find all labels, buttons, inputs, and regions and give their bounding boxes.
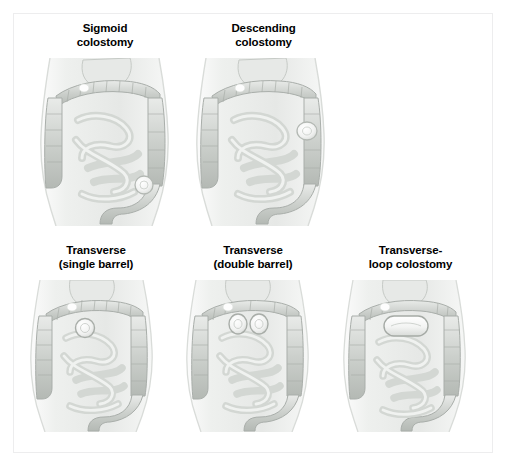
caption-line-1: Sigmoid (20, 22, 190, 36)
caption-line-1: Transverse- (329, 244, 492, 258)
panel-descending-colostomy: Descending colostomy (176, 18, 351, 228)
panel-transverse-double-barrel: Transverse (double barrel) (172, 242, 334, 450)
panel-transverse-loop-colostomy: Transverse- loop colostomy (329, 242, 492, 450)
abdomen-illustration-descending (176, 58, 351, 226)
stoma-marker-loop (384, 316, 428, 336)
stoma-marker-distal (250, 314, 268, 334)
abdomen-illustration-sigmoid (20, 58, 190, 226)
abdomen-illustration-transverse-single (16, 280, 176, 432)
caption-line-1: Transverse (172, 244, 334, 258)
caption-line-2: colostomy (176, 36, 351, 50)
caption-transverse-double-barrel: Transverse (double barrel) (172, 244, 334, 271)
caption-line-1: Descending (176, 22, 351, 36)
caption-transverse-loop-colostomy: Transverse- loop colostomy (329, 244, 492, 271)
stoma-marker (76, 319, 95, 338)
caption-descending-colostomy: Descending colostomy (176, 22, 351, 49)
abdomen-illustration-transverse-loop (329, 280, 492, 432)
panel-sigmoid-colostomy: Sigmoid colostomy (20, 18, 190, 228)
panel-transverse-single-barrel: Transverse (single barrel) (16, 242, 176, 450)
caption-sigmoid-colostomy: Sigmoid colostomy (20, 22, 190, 49)
caption-line-2: (double barrel) (172, 258, 334, 272)
stoma-marker-proximal (229, 314, 247, 334)
stoma-marker (297, 122, 317, 140)
caption-transverse-single-barrel: Transverse (single barrel) (16, 244, 176, 271)
caption-line-2: loop colostomy (329, 258, 492, 272)
abdomen-illustration-transverse-double (172, 280, 334, 432)
caption-line-2: (single barrel) (16, 258, 176, 272)
caption-line-1: Transverse (16, 244, 176, 258)
caption-line-2: colostomy (20, 36, 190, 50)
illustration-frame: Sigmoid colostomy (13, 13, 493, 453)
stoma-marker (135, 176, 153, 194)
